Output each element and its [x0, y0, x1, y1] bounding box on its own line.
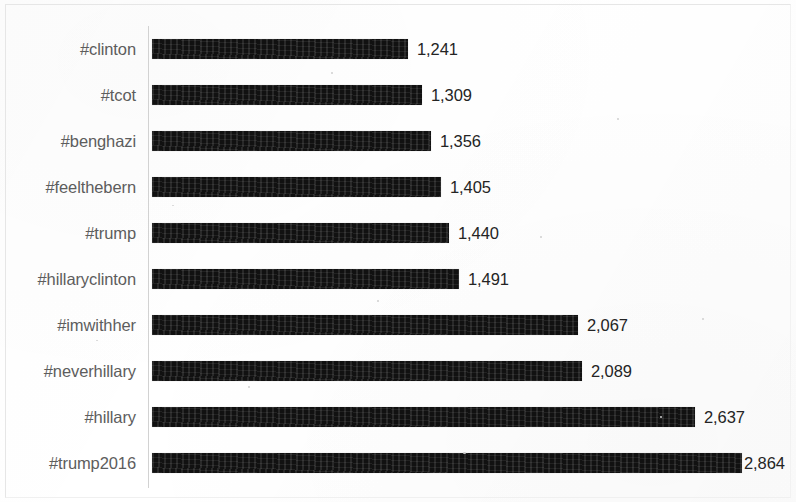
bar-value-label: 1,356: [440, 131, 481, 151]
category-label: #hillaryclinton: [0, 256, 136, 302]
bar-value-label: 1,309: [431, 85, 472, 105]
bar-value-label: 2,637: [704, 407, 745, 427]
bar: [152, 361, 582, 381]
bar-value-label: 1,440: [458, 223, 499, 243]
category-label: #trump: [0, 210, 136, 256]
bar-row: #trump20162,864: [0, 440, 796, 486]
bar-row: #benghazi1,356: [0, 118, 796, 164]
category-label: #trump2016: [0, 440, 136, 486]
plot-area: #clinton1,241#tcot1,309#benghazi1,356#fe…: [0, 0, 796, 502]
bar-value-label: 2,067: [587, 315, 628, 335]
category-label: #feelthebern: [0, 164, 136, 210]
category-label: #hillary: [0, 394, 136, 440]
category-label: #neverhillary: [0, 348, 136, 394]
bar: [152, 177, 441, 197]
category-label: #imwithher: [0, 302, 136, 348]
category-label: #clinton: [0, 26, 136, 72]
bar-row: #hillary2,637: [0, 394, 796, 440]
category-label: #tcot: [0, 72, 136, 118]
bar: [152, 39, 408, 59]
bar: [152, 223, 449, 243]
bar-row: #neverhillary2,089: [0, 348, 796, 394]
bar-value-label: 2,089: [591, 361, 632, 381]
category-label: #benghazi: [0, 118, 136, 164]
bar-row: #hillaryclinton1,491: [0, 256, 796, 302]
bar-row: #clinton1,241: [0, 26, 796, 72]
bar-value-label: 1,405: [450, 177, 491, 197]
bar-chart-figure: #clinton1,241#tcot1,309#benghazi1,356#fe…: [0, 0, 796, 502]
bar: [152, 269, 459, 289]
bar: [152, 453, 742, 473]
bar-row: #trump1,440: [0, 210, 796, 256]
bar: [152, 85, 422, 105]
bar: [152, 315, 578, 335]
bar-row: #tcot1,309: [0, 72, 796, 118]
bar: [152, 131, 431, 151]
bar: [152, 407, 695, 427]
bar-value-label: 2,864: [744, 453, 785, 473]
bar-value-label: 1,491: [468, 269, 509, 289]
bar-value-label: 1,241: [417, 39, 458, 59]
bar-row: #imwithher2,067: [0, 302, 796, 348]
bar-row: #feelthebern1,405: [0, 164, 796, 210]
